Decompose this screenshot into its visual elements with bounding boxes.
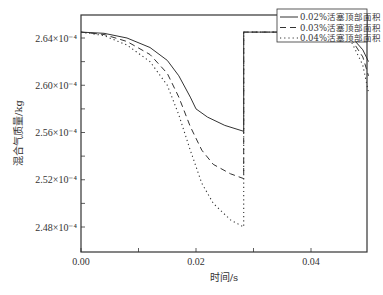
plot-frame [81, 15, 367, 252]
x-axis-ticks: 0.000.020.04 [72, 248, 320, 267]
x-tick-label: 0.02 [187, 256, 205, 267]
x-tick-label: 0.04 [302, 256, 320, 267]
y-tick-label: 2.60×10⁻⁴ [35, 80, 77, 91]
x-axis-label: 时间/s [210, 271, 239, 283]
y-tick-label: 2.64×10⁻⁴ [35, 33, 77, 44]
y-tick-label: 2.52×10⁻⁴ [35, 174, 77, 185]
legend: 0.02%活塞顶部面积0.03%活塞顶部面积0.04%活塞顶部面积 [277, 9, 381, 43]
legend-label: 0.04%活塞顶部面积 [300, 33, 381, 43]
x-tick-label: 0.00 [72, 256, 90, 267]
legend-label: 0.02%活塞顶部面积 [300, 12, 381, 22]
series-line-1 [81, 32, 369, 131]
y-tick-label: 2.56×10⁻⁴ [35, 127, 77, 138]
y-tick-label: 2.48×10⁻⁴ [35, 222, 77, 233]
y-axis-ticks: 2.48×10⁻⁴2.52×10⁻⁴2.56×10⁻⁴2.60×10⁻⁴2.64… [35, 33, 85, 233]
y-axis-label: 混合气质量/kg [12, 99, 24, 165]
series-line-2 [81, 32, 369, 179]
line-chart: 0.000.020.04 2.48×10⁻⁴2.52×10⁻⁴2.56×10⁻⁴… [0, 0, 383, 295]
plot-lines [81, 32, 369, 227]
legend-label: 0.03%活塞顶部面积 [300, 23, 381, 33]
series-line-3 [81, 32, 369, 227]
